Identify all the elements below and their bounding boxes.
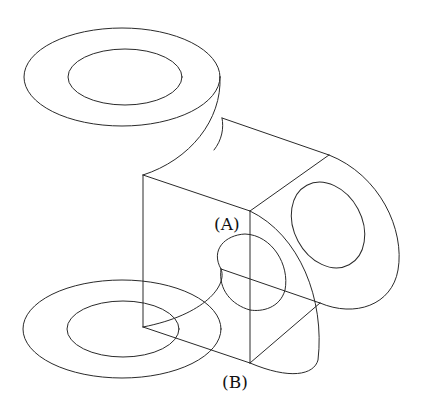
center-hole [217, 234, 286, 310]
top-ring [24, 28, 223, 175]
right-ring-outer [320, 155, 399, 309]
center-hole-outline [217, 234, 286, 310]
bottom-ring-inner [67, 301, 179, 357]
cube-bottom-front-edge [143, 327, 250, 363]
top-ring-inner [68, 49, 182, 105]
label-b: (B) [222, 374, 248, 391]
cube [143, 118, 329, 363]
notch-curve [143, 269, 222, 327]
isometric-figure: (A) (B) [0, 0, 421, 410]
label-a: (A) [214, 216, 240, 233]
bottom-ring-outer [23, 280, 221, 378]
cube-top-right-edge [250, 155, 329, 211]
right-ring [250, 155, 399, 374]
cube-top-back-edge [222, 118, 329, 155]
bottom-ring [23, 280, 221, 378]
top-ring-sweep-outer [143, 77, 220, 175]
cube-bottom-right-edge [250, 303, 320, 363]
top-ring-outer [24, 28, 220, 126]
notch-back-edge [221, 269, 320, 303]
top-ring-sweep-inner [214, 118, 223, 150]
cube-top-front-edge [143, 175, 250, 211]
right-ring-inner [277, 169, 379, 280]
